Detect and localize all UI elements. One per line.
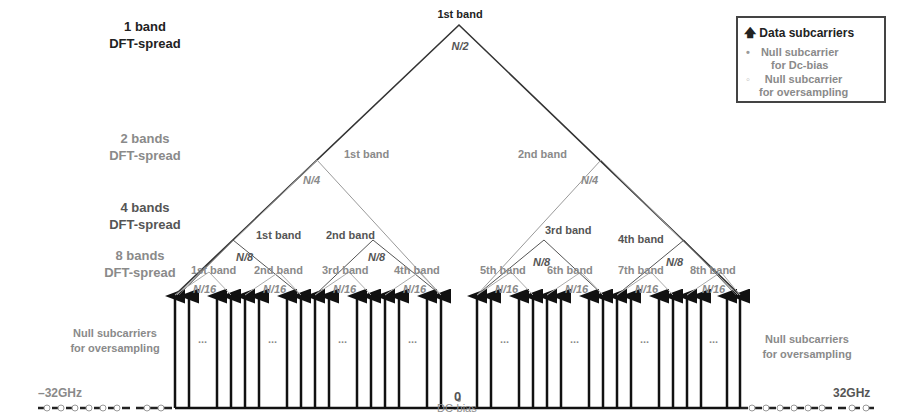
band-4-1-label: 1st band [256,229,301,242]
ellipsis: ... [338,333,347,346]
ellipsis: ... [198,333,207,346]
band-2-2-size: N/4 [581,174,598,187]
band-8-2-size: N/16 [263,283,286,296]
band-8-1-label: 1st band [191,264,236,277]
band-8-5-size: N/16 [495,283,518,296]
arrow-up-icon: 🡅 [744,26,756,40]
band-2-1-label: 1st band [344,148,389,161]
band-1-label: 1st band [430,8,490,21]
legend: 🡅 Data subcarriers • Null subcarrier for… [736,16,886,103]
axis-left-label: –32GHz [38,385,82,402]
ellipsis: ... [640,333,649,346]
band-4-2-size: N/8 [368,251,385,264]
band-8-7-size: N/16 [635,283,658,296]
band-8-4-label: 4th band [394,264,440,277]
band-2-2-label: 2nd band [518,148,567,161]
band-8-8-label: 8th band [690,264,736,277]
band-8-6-size: N/16 [565,283,588,296]
band-1-size: N/2 [430,40,490,53]
ellipsis: ... [500,333,509,346]
dc-bias-label: DC-bias [437,402,477,413]
one-band-label: 1 bandDFT-spread [95,18,195,52]
four-bands-label: 4 bandsDFT-spread [95,199,195,233]
ellipsis: ... [268,333,277,346]
band-4-4-size: N/8 [666,256,683,269]
hollow-dot-icon: ◦ [746,73,750,85]
band-4-3-label: 3rd band [545,224,591,237]
band-8-4-size: N/16 [403,283,426,296]
band-8-3-size: N/16 [333,283,356,296]
band-8-5-label: 5th band [480,264,526,277]
ellipsis: ... [570,333,579,346]
two-bands-label: 2 bandsDFT-spread [95,130,195,164]
band-8-2-label: 2nd band [254,264,303,277]
band-8-3-label: 3rd band [322,264,368,277]
band-8-7-label: 7th band [618,264,664,277]
band-8-8-size: N/16 [702,283,725,296]
legend-null-oversampling: ◦ Null subcarrier for oversampling [746,73,848,99]
eight-bands-label: 8 bandsDFT-spread [90,247,190,281]
band-4-4-label: 4th band [618,233,664,246]
band-2-1-size: N/4 [303,174,320,187]
ellipsis: ... [709,333,718,346]
legend-data-subcarriers: 🡅 Data subcarriers [744,24,854,45]
right-null-subcarriers-label: Null subcarriersfor oversampling [752,332,862,362]
ellipsis: ... [408,333,417,346]
band-4-1-size: N/8 [236,251,253,264]
band-8-6-label: 6th band [547,264,593,277]
left-null-subcarriers-label: Null subcarriersfor oversampling [60,326,170,356]
axis-right-label: 32GHz [833,385,870,402]
legend-null-dc: • Null subcarrier for Dc-bias [746,46,839,72]
band-1-triangle [175,25,740,295]
band-8-1-size: N/16 [193,283,216,296]
filled-dot-icon: • [746,46,750,58]
band-4-2-label: 2nd band [326,229,375,242]
